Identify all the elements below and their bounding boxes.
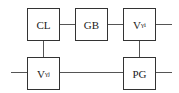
node-cl: CL xyxy=(27,8,60,41)
node-gb-label: GB xyxy=(84,19,99,31)
edge-cl-gb xyxy=(59,24,75,25)
edge-gb-v-gamma-i xyxy=(107,24,123,25)
node-v-gamma-i-label: V xyxy=(133,19,141,31)
edge-input-v-gamma-j xyxy=(11,72,27,73)
node-v-gamma-j-label: V xyxy=(37,68,45,80)
node-v-gamma-i-subscript: γi xyxy=(141,21,146,29)
node-pg-label: PG xyxy=(132,68,146,80)
node-cl-label: CL xyxy=(36,19,50,31)
node-v-gamma-i: Vγi xyxy=(123,8,156,41)
edge-cl-v-gamma-j xyxy=(43,40,44,57)
node-gb: GB xyxy=(75,8,108,41)
edge-v-gamma-i-output xyxy=(155,24,172,25)
edge-v-gamma-j-pg xyxy=(59,72,123,73)
node-pg: PG xyxy=(123,57,156,90)
node-v-gamma-j: Vγj xyxy=(27,57,60,90)
node-v-gamma-j-subscript: γj xyxy=(45,70,50,78)
edge-pg-output xyxy=(155,72,172,73)
edge-v-gamma-i-pg xyxy=(139,40,140,57)
